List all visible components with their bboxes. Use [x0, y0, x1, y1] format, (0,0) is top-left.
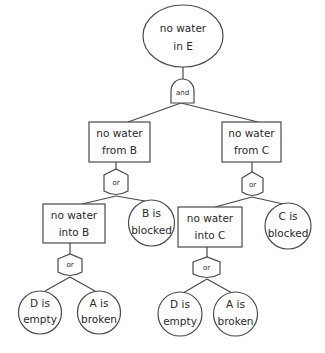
event-from-c-line2: from C — [234, 144, 269, 156]
top-event: no water in E — [143, 5, 223, 67]
b-blocked-line2: blocked — [131, 224, 172, 236]
a-broken-right-line1: A is — [226, 298, 245, 310]
or-gate-from-c: or — [242, 172, 263, 196]
d-empty-right-line2: empty — [163, 315, 197, 327]
event-into-c-line1: no water — [187, 212, 234, 224]
d-empty-left-line2: empty — [23, 313, 57, 325]
event-into-b-line2: into B — [59, 226, 90, 238]
event-from-b-line2: from B — [102, 144, 137, 156]
edge-or-into-b-to-a-broken — [70, 277, 95, 291]
or-gate-into-c-label: or — [203, 264, 210, 272]
event-from-b-line1: no water — [96, 127, 143, 139]
fault-tree-diagram: no water in E and no water from B no wat… — [0, 0, 325, 353]
top-event-ellipse — [143, 5, 223, 67]
event-into-b-line1: no water — [51, 209, 98, 221]
edge-or-into-c-to-a-broken — [207, 279, 232, 293]
b-blocked-line1: B is — [142, 207, 161, 219]
or-gate-into-b: or — [58, 254, 82, 276]
or-gate-into-b-label: or — [66, 261, 73, 269]
top-event-line2: in E — [173, 40, 193, 52]
d-empty-right-line1: D is — [170, 298, 190, 310]
event-from-c-line1: no water — [228, 127, 275, 139]
edge-and-to-from-c — [181, 103, 258, 122]
d-empty-left-line1: D is — [30, 297, 50, 309]
event-no-water-from-c: no water from C — [222, 122, 281, 162]
event-no-water-from-b: no water from B — [89, 122, 150, 162]
a-broken-left-line2: broken — [81, 313, 117, 325]
edge-or-b-to-b-blocked — [116, 196, 145, 201]
edge-and-to-from-b — [128, 103, 181, 122]
event-d-is-empty-right: D is empty — [158, 292, 202, 336]
edge-or-b-to-into-b — [82, 196, 116, 204]
event-no-water-into-b: no water into B — [43, 204, 105, 243]
edge-or-c-to-into-c — [215, 197, 252, 207]
event-d-is-empty-left: D is empty — [19, 291, 62, 334]
event-a-is-broken-left: A is broken — [78, 291, 121, 334]
or-gate-from-b: or — [104, 169, 128, 195]
c-blocked-line2: blocked — [268, 227, 309, 239]
event-a-is-broken-right: A is broken — [214, 292, 258, 336]
event-b-is-blocked: B is blocked — [129, 200, 175, 246]
or-gate-from-c-label: or — [249, 181, 256, 189]
edge-or-into-b-to-d-empty — [45, 277, 70, 291]
a-broken-right-line2: broken — [218, 315, 254, 327]
or-gate-from-b-label: or — [112, 179, 119, 187]
a-broken-left-line1: A is — [90, 297, 109, 309]
event-c-is-blocked: C is blocked — [265, 203, 311, 249]
event-no-water-into-c: no water into C — [178, 207, 242, 247]
top-event-line1: no water — [160, 22, 207, 34]
and-gate-label: and — [176, 89, 189, 97]
and-gate: and — [171, 79, 194, 103]
edge-or-into-c-to-d-empty — [183, 279, 207, 293]
edge-or-c-to-c-blocked — [252, 197, 283, 204]
event-into-c-line2: into C — [195, 229, 226, 241]
or-gate-into-c: or — [193, 257, 220, 278]
c-blocked-line1: C is — [278, 210, 297, 222]
